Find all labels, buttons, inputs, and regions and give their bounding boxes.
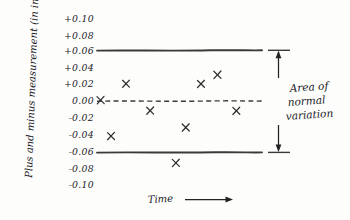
data-point: [198, 80, 205, 87]
hand-drawn-control-chart: Plus and minus measurement (in inches) +…: [0, 0, 350, 220]
data-point: [108, 132, 115, 139]
y-tick-label: -0.06: [69, 146, 94, 157]
y-tick-label: +0.04: [64, 62, 94, 73]
data-point: [97, 96, 104, 104]
y-tick-label: +0.08: [64, 30, 94, 41]
annotation-line-2: normal: [287, 93, 325, 108]
y-tick-label: -0.08: [69, 163, 94, 174]
data-point: [123, 80, 130, 87]
data-point: [233, 107, 240, 114]
annotation-line-1: Area of: [288, 79, 330, 94]
y-tick-label: +0.10: [64, 13, 94, 24]
y-tick-label: +0.06: [64, 45, 94, 56]
plot-canvas: Plus and minus measurement (in inches) +…: [0, 0, 350, 220]
y-axis-title: Plus and minus measurement (in inches): [23, 0, 41, 179]
y-tick-label: -0.02: [69, 112, 94, 123]
data-point: [182, 124, 189, 131]
x-axis-arrowhead-icon: [226, 197, 234, 203]
x-axis-title-group: Time: [148, 193, 233, 205]
data-point: [147, 107, 154, 114]
reference-lines: [97, 50, 263, 152]
data-point: [172, 159, 179, 166]
y-tick-label: 0.00: [72, 95, 94, 106]
x-axis-title: Time: [148, 193, 174, 205]
annotation-line-3: variation: [285, 107, 333, 122]
span-arrowhead-down-icon: [276, 145, 282, 152]
y-tick-labels: +0.10 +0.08 +0.06 +0.04 +0.02 0.00 -0.02…: [64, 13, 94, 190]
y-tick-label: +0.02: [64, 78, 94, 89]
y-axis-title-group: Plus and minus measurement (in inches): [23, 0, 41, 179]
area-of-normal-variation-annotation: Area of normal variation: [285, 79, 333, 122]
y-tick-label: -0.04: [69, 129, 94, 140]
y-tick-label: -0.10: [69, 179, 94, 190]
span-arrowhead-up-icon: [276, 51, 282, 58]
data-point: [214, 71, 221, 79]
